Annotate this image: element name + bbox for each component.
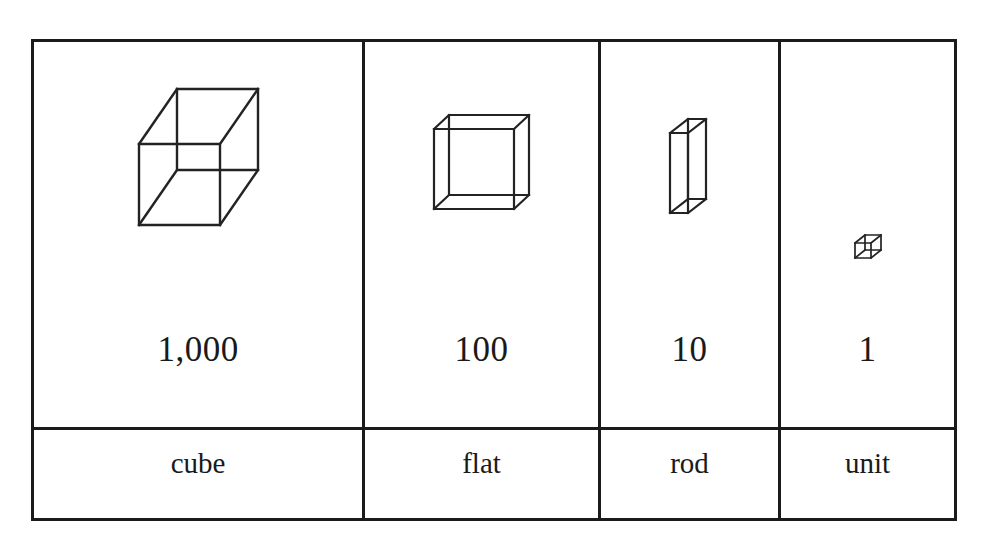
table-cell-ones[interactable]: 1	[781, 42, 954, 427]
value-thousands: 1,000	[157, 332, 238, 367]
value-area-hundreds: 100	[365, 332, 598, 427]
table-cell-name-cube[interactable]: cube	[34, 430, 365, 518]
name-unit: unit	[845, 449, 890, 478]
table-cell-name-flat[interactable]: flat	[365, 430, 601, 518]
place-value-table: 1,000 100	[31, 39, 957, 521]
names-row: cube flat rod unit	[34, 427, 954, 518]
name-flat: flat	[462, 449, 501, 478]
value-area-tens: 10	[601, 332, 778, 427]
thousands-cube-icon	[34, 42, 362, 332]
value-area-ones: 1	[781, 332, 954, 427]
table-cell-hundreds[interactable]: 100	[365, 42, 601, 427]
blocks-row: 1,000 100	[34, 42, 954, 427]
hundreds-flat-icon	[365, 42, 598, 332]
table-cell-tens[interactable]: 10	[601, 42, 781, 427]
value-hundreds: 100	[455, 332, 509, 367]
value-area-thousands: 1,000	[34, 332, 362, 427]
tens-rod-icon	[601, 42, 778, 332]
value-ones: 1	[859, 332, 877, 367]
table-cell-thousands[interactable]: 1,000	[34, 42, 365, 427]
ones-unit-icon	[781, 42, 954, 332]
table-cell-name-rod[interactable]: rod	[601, 430, 781, 518]
table-cell-name-unit[interactable]: unit	[781, 430, 954, 518]
name-rod: rod	[670, 449, 709, 478]
name-cube: cube	[171, 449, 226, 478]
value-tens: 10	[672, 332, 708, 367]
